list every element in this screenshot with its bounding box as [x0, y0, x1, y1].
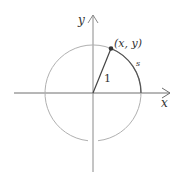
y-axis-label: y: [77, 13, 85, 27]
radius-label: 1: [104, 72, 111, 85]
x-axis: [14, 88, 170, 98]
point-label: (x, y): [114, 37, 142, 50]
point-marker-icon: [109, 46, 114, 51]
x-axis-label: x: [161, 96, 168, 110]
arc-s: [111, 49, 141, 94]
unit-circle-diagram: y x (x, y) 1 s: [0, 0, 183, 187]
radius-line: [93, 49, 111, 94]
arc-label: s: [136, 59, 140, 68]
